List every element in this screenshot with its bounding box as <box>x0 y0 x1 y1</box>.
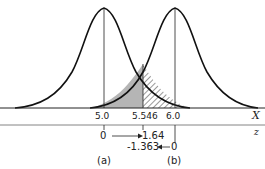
z-row-b-start: -1.363 <box>127 142 159 152</box>
panel-label-a: (a) <box>97 156 111 166</box>
distribution-curve-b <box>90 8 258 108</box>
x-tick-label-5-0: 5.0 <box>95 112 109 121</box>
z-row-b-end: 0 <box>171 142 177 152</box>
panel-label-b: (b) <box>167 156 181 166</box>
z-axis-name: z <box>254 128 259 137</box>
x-axis-name: X <box>252 110 260 121</box>
normal-distribution-diagram: 5.0 5.546 6.0 X z 0 1.64 -1.363 0 (a) (b… <box>0 0 265 169</box>
x-tick-label-6-0: 6.0 <box>166 112 180 121</box>
z-row-a-start: 0 <box>100 131 106 141</box>
x-tick-label-5-546: 5.546 <box>132 112 158 121</box>
z-row-a-end: 1.64 <box>142 131 164 141</box>
